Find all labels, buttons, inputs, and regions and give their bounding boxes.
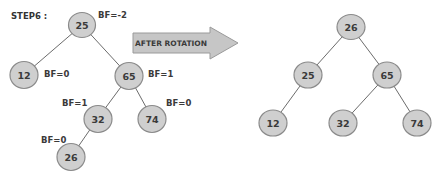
- balance-factor-label: BF=0: [166, 98, 191, 108]
- node-value: 32: [91, 114, 104, 125]
- before-node-25: 25 BF=-2: [69, 10, 127, 38]
- node-value: 12: [17, 70, 30, 81]
- after-node-74: 74: [403, 110, 431, 136]
- step-label: STEP6 :: [11, 11, 47, 21]
- before-node-65: 65 BF=1: [115, 63, 173, 90]
- node-value: 12: [266, 118, 279, 129]
- before-node-32: 32 BF=1: [62, 98, 112, 133]
- after-node-32: 32: [329, 110, 357, 136]
- node-value: 65: [380, 70, 393, 81]
- after-tree: 26 25 65 12 32 74: [259, 15, 431, 137]
- balance-factor-label: BF=0: [41, 135, 66, 145]
- node-value: 65: [122, 71, 135, 82]
- before-node-12: 12 BF=0: [10, 62, 69, 89]
- before-node-74: 74 BF=0: [138, 98, 191, 133]
- before-node-26: 26 BF=0: [41, 135, 85, 171]
- balance-factor-label: BF=-2: [98, 10, 127, 20]
- after-node-12: 12: [259, 110, 287, 136]
- node-value: 32: [336, 118, 349, 129]
- node-value: 25: [301, 70, 314, 81]
- node-value: 26: [64, 152, 78, 163]
- node-value: 26: [344, 22, 358, 33]
- after-node-25: 25: [294, 62, 322, 88]
- node-value: 25: [75, 20, 88, 31]
- arrow-label: AFTER ROTATION: [135, 39, 207, 48]
- after-node-26: 26: [337, 15, 365, 40]
- balance-factor-label: BF=1: [62, 98, 87, 108]
- balance-factor-label: BF=0: [44, 69, 69, 79]
- balance-factor-label: BF=1: [148, 69, 173, 79]
- node-value: 74: [410, 118, 424, 129]
- avl-rotation-diagram: STEP6 : 25 BF=-2 12 BF=0 65 BF=1 32: [0, 0, 437, 175]
- after-node-65: 65: [373, 62, 401, 88]
- node-value: 74: [145, 114, 159, 125]
- after-rotation-arrow: AFTER ROTATION: [133, 27, 238, 59]
